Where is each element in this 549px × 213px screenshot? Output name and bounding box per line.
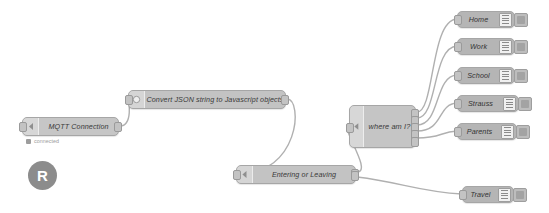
node-debug-school[interactable]: School	[457, 67, 515, 84]
port-input[interactable]	[454, 99, 462, 109]
port-input[interactable]	[454, 15, 462, 25]
registered-mark-icon: R	[28, 161, 57, 190]
wire-convert-to-entering	[237, 99, 295, 174]
mqtt-status: connected	[26, 138, 59, 144]
node-convert-json[interactable]: Convert JSON string to Javascript object…	[128, 90, 286, 109]
debug-toggle-button[interactable]	[516, 125, 530, 139]
port-input[interactable]	[233, 170, 241, 180]
node-label: MQTT Connection	[39, 122, 118, 131]
port-input[interactable]	[454, 42, 462, 52]
node-label: Work	[458, 42, 499, 51]
wire-where-to-school	[417, 75, 457, 125]
wire-where-to-strauss	[417, 103, 457, 131]
mqtt-status-label: connected	[34, 138, 59, 144]
node-label: Parents	[458, 127, 501, 136]
watermark-letter: R	[37, 167, 48, 184]
node-label: where am I?	[364, 122, 415, 131]
port-output[interactable]	[114, 122, 122, 132]
port-input[interactable]	[125, 95, 133, 105]
node-debug-work[interactable]: Work	[457, 38, 515, 55]
port-input[interactable]	[19, 122, 27, 132]
wire-entering-to-travel	[357, 177, 462, 194]
port-output[interactable]	[281, 95, 289, 105]
port-output-5[interactable]	[411, 137, 419, 147]
node-label: Convert JSON string to Javascript object…	[145, 95, 285, 104]
node-debug-parents[interactable]: Parents	[457, 123, 517, 140]
port-input[interactable]	[454, 127, 462, 137]
debug-bars-icon	[503, 97, 516, 111]
debug-toggle-button[interactable]	[513, 188, 527, 202]
function-glyph	[240, 170, 249, 179]
port-input[interactable]	[346, 123, 354, 133]
node-label: Strauss	[458, 99, 503, 108]
flow-canvas[interactable]: MQTT Connection connected Convert JSON s…	[0, 0, 549, 213]
debug-toggle-button[interactable]	[514, 40, 528, 54]
node-debug-travel[interactable]: Travel	[462, 186, 514, 203]
node-label: Entering or Leaving	[253, 170, 355, 179]
debug-bars-icon	[501, 125, 514, 139]
node-entering-or-leaving[interactable]: Entering or Leaving	[236, 165, 356, 184]
port-input[interactable]	[454, 71, 462, 81]
node-label: Home	[458, 15, 499, 24]
node-mqtt-connection[interactable]: MQTT Connection	[22, 117, 119, 136]
debug-toggle-button[interactable]	[514, 69, 528, 83]
debug-toggle-button[interactable]	[518, 97, 532, 111]
port-input[interactable]	[459, 190, 467, 200]
node-where-am-i[interactable]: where am I?	[349, 105, 416, 148]
status-square-icon	[26, 139, 31, 144]
debug-bars-icon	[498, 188, 511, 202]
node-debug-strauss[interactable]: Strauss	[457, 95, 519, 112]
wire-where-to-work	[417, 46, 457, 118]
node-debug-home[interactable]: Home	[457, 11, 515, 28]
function-glyph	[132, 95, 141, 104]
node-label: Travel	[463, 190, 498, 199]
antenna-glyph	[27, 122, 35, 131]
wire-where-to-home	[417, 19, 457, 112]
debug-bars-icon	[499, 13, 512, 27]
node-label: School	[458, 71, 499, 80]
wire-where-to-parents	[417, 131, 457, 138]
debug-bars-icon	[499, 69, 512, 83]
port-output-2[interactable]	[351, 171, 359, 181]
debug-bars-icon	[499, 40, 512, 54]
debug-toggle-button[interactable]	[514, 13, 528, 27]
